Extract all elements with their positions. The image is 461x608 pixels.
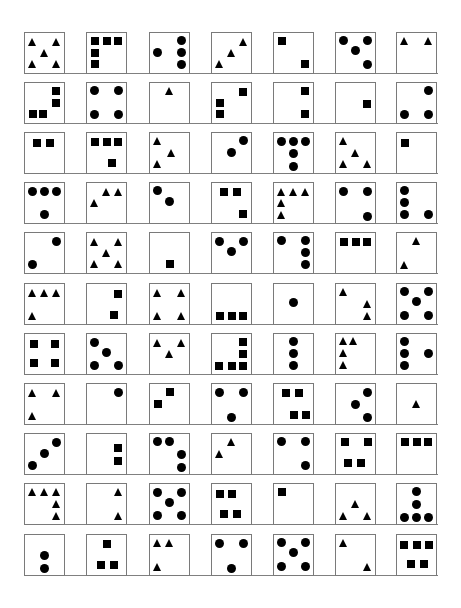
triangle-icon (28, 38, 36, 46)
square-icon (91, 138, 99, 146)
triangle-icon (165, 87, 173, 95)
symbol-card (211, 283, 252, 325)
square-icon (103, 37, 111, 45)
square-icon (425, 541, 433, 549)
circle-icon (277, 236, 286, 245)
triangle-icon (289, 188, 297, 196)
symbol-card (24, 534, 65, 576)
symbol-card (86, 283, 127, 325)
square-icon (154, 400, 162, 408)
circle-icon (90, 86, 99, 95)
symbol-card (273, 383, 314, 425)
square-icon (29, 110, 37, 118)
square-icon (114, 37, 122, 45)
symbol-card (149, 483, 190, 525)
circle-icon (227, 564, 236, 573)
symbol-card (24, 182, 65, 224)
triangle-icon (153, 289, 161, 297)
square-icon (114, 444, 122, 452)
symbol-card (211, 534, 252, 576)
symbol-card (24, 32, 65, 74)
circle-icon (351, 46, 360, 55)
square-icon (110, 561, 118, 569)
circle-icon (239, 539, 248, 548)
square-icon (166, 260, 174, 268)
circle-icon (277, 437, 286, 446)
circle-icon (277, 538, 286, 547)
triangle-icon (114, 260, 122, 268)
triangle-icon (339, 349, 347, 357)
symbol-card (273, 283, 314, 325)
circle-icon (424, 210, 433, 219)
triangle-icon (165, 350, 173, 358)
circle-icon (52, 187, 61, 196)
triangle-icon (215, 60, 223, 68)
triangle-icon (351, 149, 359, 157)
triangle-icon (28, 60, 36, 68)
circle-icon (400, 186, 409, 195)
triangle-icon (90, 238, 98, 246)
symbol-card (273, 483, 314, 525)
triangle-icon (349, 337, 357, 345)
circle-icon (363, 388, 372, 397)
triangle-icon (277, 199, 285, 207)
circle-icon (239, 237, 248, 246)
triangle-icon (28, 289, 36, 297)
circle-icon (424, 110, 433, 119)
circle-icon (289, 162, 298, 171)
triangle-icon (339, 288, 347, 296)
circle-icon (239, 136, 248, 145)
circle-icon (114, 361, 123, 370)
triangle-icon (400, 37, 408, 45)
square-icon (363, 100, 371, 108)
symbol-card (86, 132, 127, 174)
symbol-card (335, 483, 376, 525)
square-icon (420, 560, 428, 568)
triangle-icon (52, 38, 60, 46)
symbol-card (396, 82, 437, 124)
symbol-card (86, 433, 127, 475)
triangle-icon (90, 260, 98, 268)
symbol-card (24, 483, 65, 525)
symbol-card (149, 383, 190, 425)
square-icon (215, 362, 223, 370)
circle-icon (153, 48, 162, 57)
circle-icon (363, 413, 372, 422)
triangle-icon (351, 500, 359, 508)
square-icon (166, 388, 174, 396)
symbol-card (149, 132, 190, 174)
square-icon (52, 99, 60, 107)
circle-icon (277, 137, 286, 146)
square-icon (357, 459, 365, 467)
triangle-icon (153, 137, 161, 145)
square-icon (424, 438, 432, 446)
triangle-icon (114, 188, 122, 196)
symbol-card (211, 383, 252, 425)
triangle-icon (177, 339, 185, 347)
symbol-card (149, 283, 190, 325)
triangle-icon (28, 412, 36, 420)
triangle-icon (165, 539, 173, 547)
symbol-card (335, 182, 376, 224)
square-icon (413, 541, 421, 549)
symbol-card (211, 483, 252, 525)
circle-icon (28, 461, 37, 470)
circle-icon (424, 86, 433, 95)
symbol-card (335, 433, 376, 475)
circle-icon (400, 198, 409, 207)
symbol-grid (0, 0, 461, 608)
circle-icon (52, 237, 61, 246)
circle-icon (165, 498, 174, 507)
square-icon (103, 540, 111, 548)
square-icon (216, 312, 224, 320)
triangle-icon (52, 488, 60, 496)
square-icon (295, 389, 303, 397)
symbol-card (86, 232, 127, 274)
square-icon (216, 490, 224, 498)
triangle-icon (363, 160, 371, 168)
triangle-icon (114, 238, 122, 246)
triangle-icon (301, 188, 309, 196)
symbol-card (335, 132, 376, 174)
triangle-icon (215, 450, 223, 458)
symbol-card (335, 383, 376, 425)
